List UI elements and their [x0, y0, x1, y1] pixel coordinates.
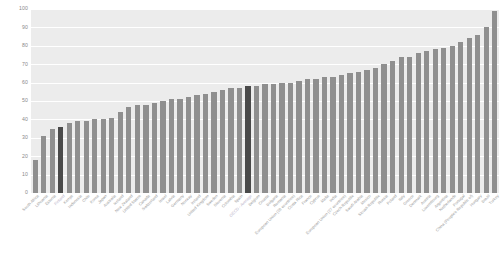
bar [152, 103, 157, 193]
bar [305, 79, 310, 193]
bar [143, 105, 148, 193]
y-tick-label: 10 [22, 172, 28, 177]
y-tick-label: 80 [22, 43, 28, 48]
y-tick-label: 70 [22, 62, 28, 67]
bar [186, 97, 191, 193]
bar [245, 86, 250, 193]
y-axis: 0102030405060708090100 [0, 0, 31, 193]
bar [279, 83, 284, 193]
bar [109, 118, 114, 193]
bar [364, 70, 369, 193]
bar [339, 75, 344, 193]
bar [467, 38, 472, 193]
bar [220, 90, 225, 193]
bar [433, 49, 438, 193]
bar [271, 84, 276, 193]
bar-chart: 0102030405060708090100 South AfricaLithu… [0, 0, 502, 279]
bar [228, 88, 233, 193]
y-tick-label: 50 [22, 98, 28, 103]
bar [330, 77, 335, 193]
bar [67, 123, 72, 193]
bar [84, 121, 89, 193]
y-tick-label: 60 [22, 80, 28, 85]
bar [135, 105, 140, 193]
bar [347, 73, 352, 193]
bar [322, 77, 327, 193]
bar [75, 121, 80, 193]
bar [169, 99, 174, 193]
bar [441, 48, 446, 193]
bar [313, 79, 318, 193]
bar [296, 81, 301, 193]
bar [475, 35, 480, 193]
y-tick-label: 0 [25, 190, 28, 195]
y-tick-label: 90 [22, 25, 28, 30]
bar [194, 95, 199, 193]
y-tick-label: 20 [22, 154, 28, 159]
bar [160, 101, 165, 193]
bar [399, 57, 404, 193]
bar [254, 86, 259, 193]
bar [118, 112, 123, 193]
bar [126, 107, 131, 193]
bar [288, 83, 293, 193]
bar [407, 57, 412, 193]
y-tick-label: 40 [22, 117, 28, 122]
bar [58, 127, 63, 193]
bar [424, 51, 429, 193]
bar [416, 53, 421, 193]
x-axis-labels: South AfricaLithuaniaEstoniaFinlandKenya… [31, 194, 499, 279]
bar [177, 99, 182, 193]
y-tick-label: 30 [22, 135, 28, 140]
bar [381, 64, 386, 193]
bar [450, 46, 455, 193]
bar [484, 27, 489, 193]
bars-layer [31, 9, 499, 193]
bar [203, 94, 208, 193]
bar [50, 129, 55, 193]
bar [101, 119, 106, 193]
bar [237, 88, 242, 193]
bar [41, 136, 46, 193]
bar [373, 68, 378, 193]
bar [92, 119, 97, 193]
bar [492, 11, 497, 193]
bar [356, 72, 361, 193]
bar [458, 42, 463, 193]
y-tick-label: 100 [19, 6, 28, 11]
bar [262, 84, 267, 193]
bar [211, 92, 216, 193]
bar [390, 61, 395, 193]
bar [33, 160, 38, 193]
